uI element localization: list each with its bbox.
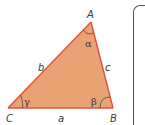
angle-label-alpha: α (85, 38, 92, 49)
triangle-diagram: A C B b c a α γ β (0, 0, 145, 125)
side-label-a: a (58, 113, 64, 124)
vertex-label-a: A (86, 9, 94, 20)
vertex-label-b: B (110, 113, 117, 124)
side-label-b: b (38, 62, 44, 73)
angle-label-gamma: γ (24, 96, 30, 107)
side-label-c: c (105, 62, 111, 73)
side-panel-border (133, 5, 145, 125)
vertex-label-c: C (6, 113, 13, 124)
angle-label-beta: β (91, 96, 97, 107)
